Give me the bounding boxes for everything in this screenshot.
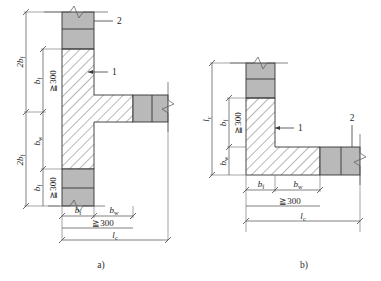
dim-bf-top-a: bf <box>32 46 46 115</box>
dim-bw-horiz-b: bw <box>275 179 323 193</box>
flange-block-top-a <box>62 12 94 49</box>
core-hatched-a <box>62 49 133 169</box>
dim-bw-label-a: bw <box>32 136 43 146</box>
dim-min300-bottom-label-a: ≧300 <box>48 177 58 199</box>
dim-min300-horiz-label-a: ≧300 <box>92 218 114 228</box>
dim-2bf-top-a: 2bf <box>15 9 29 115</box>
dim-min300-top-label-a: ≧300 <box>48 70 58 92</box>
core-hatched-b <box>246 98 320 175</box>
dim-bf-bottom-label-a: bf <box>32 184 43 192</box>
dim-bw-vert-label-b: bw <box>218 156 229 166</box>
dim-lc-horiz-label-a: lc <box>112 230 118 241</box>
dim-lc-horiz-a: lc <box>59 230 171 243</box>
dim-2bf-bottom-a: 2bf <box>15 112 29 209</box>
caption-b: b) <box>300 260 308 271</box>
dim-bf-vert-b: bf <box>218 95 232 150</box>
callout-1-label-b: 1 <box>298 123 303 133</box>
callout-1-b: 1 <box>275 123 303 133</box>
caption-a: a) <box>97 260 104 271</box>
dim-min300-horiz-b: ≧300 <box>246 196 320 206</box>
dim-2bf-top-label-a: 2bf <box>15 56 26 68</box>
dim-bw-horiz-a: bw <box>94 205 136 219</box>
dim-min300-horiz-label-b: ≧300 <box>279 196 301 206</box>
dim-bw-horiz-label-a: bw <box>110 205 120 216</box>
dim-lc-horiz-label-b: lc <box>300 211 306 222</box>
dim-lc-vert-b: lc <box>201 60 215 178</box>
dim-min300-horiz-a: ≧300 <box>62 218 133 228</box>
flange-block-bottom-a <box>62 169 94 206</box>
structural-detail-figure: 1 2 2bf 2bf bf <box>0 0 381 281</box>
subfigure-b: 1 2 lc bf bw ≧3 <box>201 57 366 271</box>
dim-bf-horiz-label-a: bf <box>75 205 83 216</box>
dim-lc-vert-label-b: lc <box>201 116 212 122</box>
dim-bf-horiz-b: bf <box>243 179 278 193</box>
figure-root: 1 2 2bf 2bf bf <box>0 0 381 281</box>
callout-2-label-a: 2 <box>117 16 122 26</box>
dim-lc-horiz-b: lc <box>243 211 363 224</box>
callout-1-label-a: 1 <box>112 67 117 77</box>
callout-2-b: 2 <box>350 113 355 147</box>
flange-block-top-b <box>246 63 275 98</box>
dim-bw-a: bw <box>32 112 46 172</box>
web-block-right-b <box>320 147 360 175</box>
callout-2-label-b: 2 <box>350 113 355 123</box>
dim-bw-vert-b: bw <box>218 147 229 175</box>
dim-bw-horiz-label-b: bw <box>294 179 304 190</box>
dim-bf-horiz-a: bf <box>59 205 97 219</box>
dim-min300-vert-label-b: ≧300 <box>233 112 243 134</box>
dim-bf-vert-label-b: bf <box>218 119 229 127</box>
callout-2-a: 2 <box>94 16 122 26</box>
dim-bf-horiz-label-b: bf <box>258 179 266 190</box>
subfigure-a: 1 2 2bf 2bf bf <box>15 6 174 271</box>
dim-bf-top-label-a: bf <box>32 77 43 85</box>
dim-bf-bottom-a: bf <box>32 169 43 206</box>
dim-2bf-bottom-label-a: 2bf <box>15 154 26 166</box>
